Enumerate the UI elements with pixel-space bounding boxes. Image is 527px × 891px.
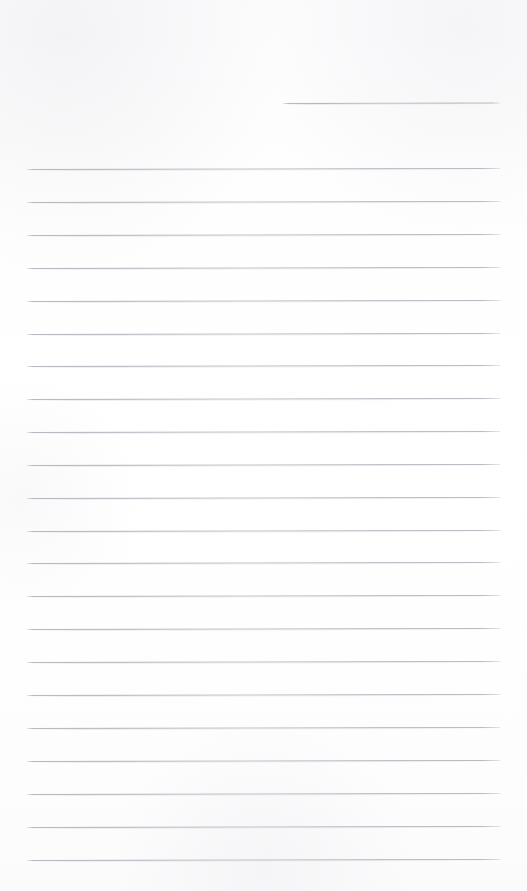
ruled-line[interactable] [27,333,500,335]
ruled-line[interactable] [27,300,500,302]
notepad-page [0,0,527,891]
ruled-line[interactable] [27,267,500,269]
ruled-line[interactable] [27,793,500,795]
ruled-line[interactable] [27,727,500,729]
ruled-line[interactable] [27,234,500,236]
ruled-line[interactable] [27,628,500,630]
paper-texture [0,0,527,891]
ruled-line[interactable] [27,562,500,564]
ruled-line[interactable] [27,826,500,828]
header-blank-rule[interactable] [283,102,500,104]
ruled-line[interactable] [27,595,500,597]
ruled-line[interactable] [27,497,500,499]
ruled-line[interactable] [27,201,500,203]
ruled-line[interactable] [27,530,500,532]
ruled-line[interactable] [27,168,500,170]
ruled-line[interactable] [27,694,500,696]
ruled-line[interactable] [27,464,500,466]
ruled-line[interactable] [27,398,500,400]
ruled-line[interactable] [27,859,500,861]
ruled-line[interactable] [27,661,500,663]
ruled-line[interactable] [27,431,500,433]
ruled-line[interactable] [27,760,500,762]
ruled-line[interactable] [27,365,500,367]
